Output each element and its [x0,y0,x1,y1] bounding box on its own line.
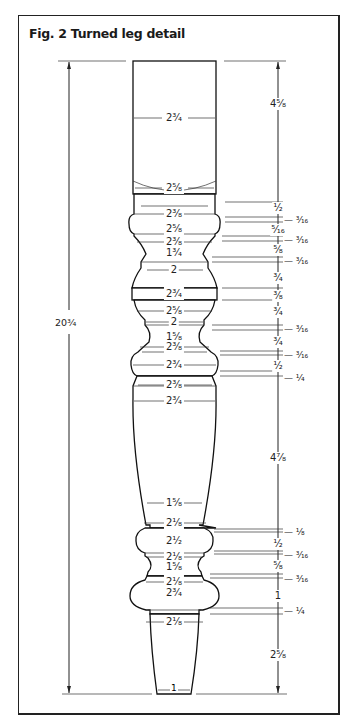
diameter-label: 2 [169,263,179,276]
diameter-label: 2 [169,315,179,328]
height-label: 4⁷⁄₈ [269,452,287,464]
diameter-label: 2³⁄₄ [164,358,184,371]
height-callout-label: — ¹⁄₄ [283,372,306,384]
height-label: ³⁄₄ [272,272,284,284]
diameter-label: 2¹⁄₈ [164,615,184,628]
diameter-label: 1³⁄₄ [164,246,184,259]
height-extension-lines [210,202,283,614]
height-label: 1 [274,590,282,602]
height-callout-label: — ³⁄₁₆ [283,573,309,585]
height-callout-label: — ¹⁄₈ [283,526,306,538]
height-label: ¹⁄₂ [272,202,284,214]
height-label: ⁵⁄₈ [272,560,284,572]
height-callout-label: — ³⁄₁₆ [283,549,309,561]
height-callout-label: — ³⁄₁₆ [283,323,309,335]
diameter-label: 2¹⁄₂ [164,534,184,547]
diameter-label: 1⁵⁄₈ [164,560,184,573]
height-callout-label: — ³⁄₁₆ [283,255,309,267]
overall-height-label: 20³⁄₄ [55,317,76,328]
diameter-label: 2³⁄₈ [164,378,184,391]
height-label: ³⁄₄ [272,306,284,318]
diameter-label: 2¹⁄₈ [164,516,184,529]
height-label: 2⁵⁄₈ [269,649,287,661]
diameter-label: 2³⁄₈ [164,207,184,220]
overall-height-dimension [67,62,71,693]
bottom-width-label: 1 [170,683,178,693]
height-callout-label: — ³⁄₁₆ [283,349,309,361]
height-callout-label: — ³⁄₁₆ [283,234,309,246]
diameter-label: 2³⁄₈ [164,340,184,353]
diameter-label: 1⁵⁄₈ [164,496,184,509]
diameter-label: 2³⁄₄ [164,287,184,300]
height-label: 4⁵⁄₈ [269,98,287,110]
height-label: ³⁄₄ [272,336,284,348]
diameter-label: 2³⁄₄ [164,586,184,599]
diameter-label: 2⁵⁄₈ [164,222,184,235]
height-label: ³⁄₈ [272,290,284,302]
height-callout-label: — ¹⁄₄ [283,605,306,617]
height-callout-label: — ³⁄₁₆ [283,214,309,226]
diameter-label: 2⁵⁄₈ [164,181,184,194]
diameter-label: 2³⁄₄ [164,394,184,407]
diameter-label: 2³⁄₄ [164,111,184,124]
height-label: ¹⁄₂ [272,360,284,372]
